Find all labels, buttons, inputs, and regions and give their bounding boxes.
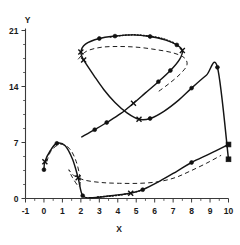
x-tick-label: 10 bbox=[224, 206, 234, 216]
x-tick-label: 7 bbox=[171, 206, 176, 216]
series-dotted-lower-trough bbox=[97, 190, 142, 197]
x-tick-label: 6 bbox=[152, 206, 157, 216]
marker-circle bbox=[97, 37, 101, 41]
marker-circle bbox=[55, 141, 59, 145]
series-dashed-lower-lobe bbox=[47, 144, 221, 186]
x-tick-label: 1 bbox=[60, 206, 65, 216]
y-axis-title: Y bbox=[25, 15, 31, 25]
chart-figure: -1012345678910071421YX bbox=[0, 0, 240, 245]
series-solid-figure-eight bbox=[44, 143, 229, 198]
figure-eight-plot: -1012345678910071421YX bbox=[0, 0, 240, 245]
marker-circle bbox=[190, 86, 194, 90]
marker-circle bbox=[190, 161, 194, 165]
x-tick-label: 2 bbox=[78, 206, 83, 216]
marker-circle bbox=[168, 69, 172, 73]
y-tick-label: 14 bbox=[9, 82, 19, 92]
x-tick-label: -1 bbox=[22, 206, 30, 216]
marker-circle bbox=[93, 128, 97, 132]
marker-circle bbox=[148, 35, 152, 39]
x-tick-label: 3 bbox=[97, 206, 102, 216]
marker-circle bbox=[42, 168, 46, 172]
marker-circle bbox=[148, 117, 152, 121]
marker-circle bbox=[175, 43, 179, 47]
y-tick-label: 0 bbox=[14, 194, 19, 204]
x-tick-label: 4 bbox=[115, 206, 120, 216]
marker-circle bbox=[141, 188, 145, 192]
marker-circle bbox=[156, 80, 160, 84]
marker-square bbox=[226, 157, 231, 162]
x-axis-title: X bbox=[116, 224, 122, 234]
x-tick-label: 9 bbox=[208, 206, 213, 216]
y-tick-label: 21 bbox=[9, 26, 19, 36]
marker-circle bbox=[105, 121, 109, 125]
x-tick-label: 0 bbox=[42, 206, 47, 216]
series-solid-upper-lobe bbox=[81, 35, 183, 137]
marker-circle bbox=[216, 65, 220, 69]
x-tick-label: 5 bbox=[134, 206, 139, 216]
marker-circle bbox=[113, 34, 117, 38]
series-solid-rising-diagonal bbox=[84, 60, 229, 159]
marker-circle bbox=[81, 194, 85, 198]
x-tick-label: 8 bbox=[189, 206, 194, 216]
marker-square bbox=[226, 142, 231, 147]
y-tick-label: 7 bbox=[14, 138, 19, 148]
